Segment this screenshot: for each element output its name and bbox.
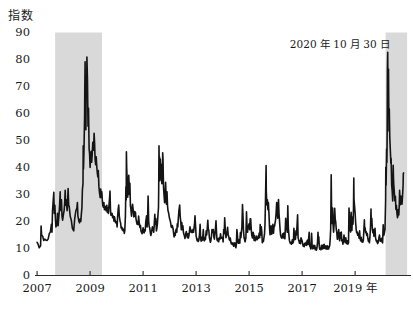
y-tick-label: 10: [15, 241, 30, 255]
x-tick-label: 2019 年: [333, 281, 377, 295]
y-tick-label: 90: [15, 25, 30, 39]
x-tick-label: 2007: [22, 281, 51, 295]
x-tick-label: 2009: [75, 281, 104, 295]
y-tick-label: 60: [15, 106, 30, 120]
volatility-index-figure: 2007200920112013201520172019 年0102030405…: [0, 0, 413, 311]
y-tick-label: 0: [23, 268, 30, 282]
x-tick-label: 2013: [181, 281, 210, 295]
y-tick-label: 20: [15, 214, 30, 228]
y-tick-label: 50: [15, 133, 30, 147]
y-tick-label: 30: [15, 187, 30, 201]
y-axis-title: 指数: [8, 6, 34, 23]
x-tick-label: 2017: [287, 281, 316, 295]
x-tick-label: 2015: [234, 281, 263, 295]
date-annotation: 2020 年 10 月 30 日: [290, 36, 390, 51]
y-tick-label: 80: [15, 52, 30, 66]
y-tick-label: 70: [15, 79, 30, 93]
y-tick-label: 40: [15, 160, 30, 174]
x-tick-label: 2011: [128, 281, 157, 295]
